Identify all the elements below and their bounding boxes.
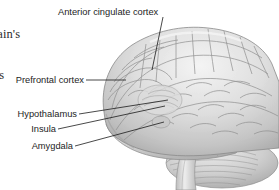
label-prefrontal-cortex: Prefrontal cortex — [0, 75, 84, 85]
label-anterior-cingulate-cortex: Anterior cingulate cortex — [58, 7, 158, 17]
label-hypothalamus: Hypothalamus — [0, 109, 77, 119]
label-insula: Insula — [0, 124, 56, 134]
label-amygdala: Amygdala — [0, 141, 73, 151]
brain-illustration — [0, 0, 279, 190]
insula-region — [138, 85, 182, 115]
brain-anatomy-figure: rain's us — [0, 0, 279, 190]
cerebral-cortex — [103, 27, 279, 156]
amygdala-region — [152, 116, 170, 128]
